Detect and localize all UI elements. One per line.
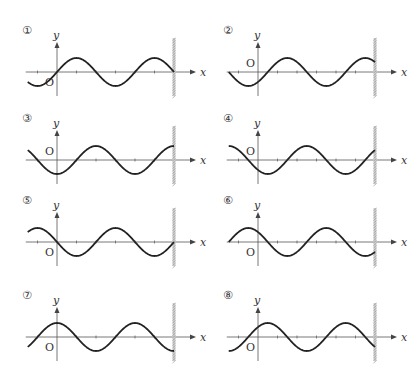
y-axis-arrow-icon [55,212,60,218]
origin-label: O [45,246,54,259]
x-axis-arrow-icon [391,70,397,75]
panel-number-label: ⑤ [22,194,32,207]
y-axis-label: y [253,117,261,130]
panel-number-label: ③ [22,112,32,125]
wave-graphs-diagram: ①xyO②xyO③xyO④xyO⑤xyO⑥xyO⑦xyO⑧xyO [0,0,419,388]
y-axis-arrow-icon [55,307,60,313]
y-axis-label: y [52,294,60,307]
y-axis-label: y [253,199,261,212]
panel-number-label: ⑧ [223,289,233,302]
panel-number-label: ⑦ [22,289,32,302]
x-axis-arrow-icon [391,240,397,245]
origin-label: O [246,246,255,259]
panel-number-label: ① [22,24,32,37]
y-axis-arrow-icon [256,130,261,136]
y-axis-label: y [52,117,60,130]
panel-number-label: ② [223,24,233,37]
y-axis-arrow-icon [256,42,261,48]
x-axis-label: x [200,66,207,79]
x-axis-label: x [401,66,408,79]
y-axis-arrow-icon [55,42,60,48]
y-axis-label: y [253,29,261,42]
graph-panel-4: ④xyO [223,112,408,186]
y-axis-arrow-icon [55,130,60,136]
x-axis-arrow-icon [190,158,196,163]
x-axis-arrow-icon [190,335,196,340]
x-axis-arrow-icon [391,335,397,340]
y-axis-arrow-icon [256,212,261,218]
x-axis-label: x [200,331,207,344]
graph-panel-5: ⑤xyO [22,194,207,268]
x-axis-label: x [200,154,207,167]
origin-label: O [45,145,54,158]
graph-panel-1: ①xyO [22,24,207,98]
x-axis-arrow-icon [190,240,196,245]
origin-label: O [246,341,255,354]
x-axis-arrow-icon [190,70,196,75]
panel-number-label: ⑥ [223,194,233,207]
y-axis-label: y [253,294,261,307]
origin-label: O [246,145,255,158]
y-axis-arrow-icon [256,307,261,313]
origin-label: O [246,57,255,70]
origin-label: O [45,341,54,354]
x-axis-label: x [200,236,207,249]
x-axis-label: x [401,154,408,167]
x-axis-arrow-icon [391,158,397,163]
x-axis-label: x [401,331,408,344]
x-axis-label: x [401,236,408,249]
graph-panel-6: ⑥xyO [223,194,408,268]
graph-panel-7: ⑦xyO [22,289,207,363]
graph-panel-3: ③xyO [22,112,207,186]
y-axis-label: y [52,199,60,212]
panel-number-label: ④ [223,112,233,125]
y-axis-label: y [52,29,60,42]
graph-panel-2: ②xyO [223,24,408,98]
graph-panel-8: ⑧xyO [223,289,408,363]
